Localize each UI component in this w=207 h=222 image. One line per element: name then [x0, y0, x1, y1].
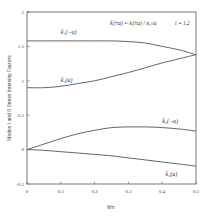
curve-label-0: k̃₁(−a)	[61, 29, 77, 36]
curve-label-3: k̃₂(a)	[166, 171, 178, 178]
curve-label-1: k̃₁(a)	[61, 77, 73, 84]
x-tick-label: 0.4	[159, 189, 166, 194]
x-tick-label: 0	[26, 189, 29, 194]
y-tick-label: 2	[22, 10, 25, 15]
y-tick-label: 1	[22, 79, 25, 84]
y-tick-label: 1.5	[18, 44, 25, 49]
plot-frame	[27, 12, 196, 184]
x-axis-ticks: 00.10.20.30.40.5	[26, 182, 200, 195]
curve-series-2	[27, 127, 196, 150]
sif-line-chart: -0.500.511.52 00.10.20.30.40.5 k̃₁(−a)k̃…	[0, 0, 207, 222]
curves	[27, 41, 196, 166]
curve-label-2: k̃₂(−a)	[162, 118, 178, 125]
y-tick-label: -0.5	[16, 182, 24, 187]
x-tick-label: 0.3	[125, 189, 132, 194]
y-axis-ticks: -0.500.511.52	[16, 10, 29, 187]
x-tick-label: 0.1	[58, 189, 65, 194]
y-tick-label: 0	[22, 147, 25, 152]
curve-series-0	[27, 41, 196, 55]
x-axis-label: θ/π	[107, 204, 115, 210]
y-tick-label: 0.5	[18, 113, 25, 118]
index-note: i = 1,2	[175, 20, 190, 26]
y-axis-label: Modes I and II Stress Intensity Factors	[6, 55, 12, 141]
x-tick-label: 0.2	[91, 189, 98, 194]
curve-labels: k̃₁(−a)k̃₁(a)k̃₂(−a)k̃₂(a)	[61, 29, 178, 178]
formula-annotation: k̃ᵢ(±a) = kᵢ(±a) / σ₀√a	[110, 20, 157, 27]
curve-series-3	[27, 150, 196, 167]
x-tick-label: 0.5	[193, 189, 200, 194]
curve-series-1	[27, 55, 196, 88]
